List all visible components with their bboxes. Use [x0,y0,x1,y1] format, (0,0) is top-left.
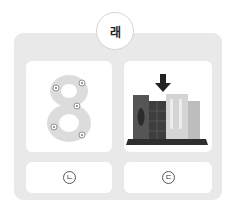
down-arrow-icon [155,74,171,92]
number-eight-with-flowers-icon [26,61,112,152]
syllable-badge-label: 래 [110,23,121,40]
option-label-circle: ㄴ [63,171,76,184]
syllable-badge: 래 [96,12,134,50]
option-label-circle: ㄷ [162,171,175,184]
answer-option-2[interactable]: ㄷ [124,162,212,193]
answer-option-1[interactable]: ㄴ [26,162,112,193]
image-card-right [124,61,212,152]
books-on-shelf-with-arrow-icon [124,61,212,152]
image-card-left [26,61,112,152]
